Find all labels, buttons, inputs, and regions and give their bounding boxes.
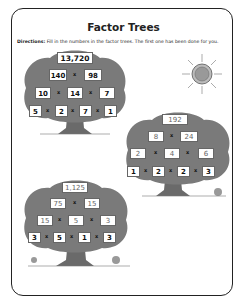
factor-box[interactable]: 1 xyxy=(78,232,91,243)
multiply-sign: x xyxy=(186,149,189,155)
directions-text: Fill in the numbers in the factor trees.… xyxy=(45,39,218,44)
factor-box[interactable]: 75 xyxy=(50,198,66,209)
multiply-sign: x xyxy=(89,89,92,95)
multiply-sign: x xyxy=(57,89,60,95)
multiply-sign: x xyxy=(194,167,197,173)
factor-box[interactable]: 24 xyxy=(180,131,198,142)
multiply-sign: x xyxy=(70,233,73,239)
factor-tree-1: 13,720 140 x 98 10 x 14 x 7 5 x 2 x 7 x … xyxy=(20,48,130,138)
factor-box[interactable]: 3 xyxy=(103,232,116,243)
factor-box[interactable]: 4 xyxy=(164,148,180,159)
multiply-sign: x xyxy=(73,199,76,205)
directions: Directions: Fill in the numbers in the f… xyxy=(17,39,218,44)
factor-box[interactable]: 1 xyxy=(104,105,117,117)
factor-box[interactable]: 7 xyxy=(99,87,115,99)
factor-box[interactable]: 2 xyxy=(55,105,68,117)
multiply-sign: x xyxy=(96,107,99,113)
page-title: Factor Trees xyxy=(0,21,247,33)
factor-tree-2: 192 8 x 24 2 x 4 x 6 1 x 2 x 2 x 3 xyxy=(122,110,234,200)
directions-label: Directions: xyxy=(17,39,45,44)
factor-box[interactable]: 14 xyxy=(67,87,83,99)
multiply-sign: x xyxy=(58,216,61,222)
multiply-sign: x xyxy=(154,149,157,155)
multiply-sign: x xyxy=(71,107,74,113)
factor-box[interactable]: 6 xyxy=(198,148,214,159)
factor-tree-3: 1,125 75 x 15 15 x 5 x 3 3 x 5 x 1 x 3 xyxy=(20,178,132,270)
factor-box[interactable]: 2 xyxy=(152,166,165,177)
multiply-sign: x xyxy=(73,71,76,77)
factor-box[interactable]: 2 xyxy=(177,166,190,177)
sun-icon xyxy=(180,52,224,100)
multiply-sign: x xyxy=(95,233,98,239)
factor-box[interactable]: 192 xyxy=(162,114,188,125)
factor-box[interactable]: 98 xyxy=(84,69,102,81)
multiply-sign: x xyxy=(169,167,172,173)
multiply-sign: x xyxy=(90,216,93,222)
factor-box[interactable]: 140 xyxy=(49,69,67,81)
factor-box[interactable]: 10 xyxy=(35,87,51,99)
multiply-sign: x xyxy=(45,233,48,239)
factor-box[interactable]: 5 xyxy=(53,232,66,243)
factor-box[interactable]: 1,125 xyxy=(62,182,88,193)
factor-box[interactable]: 1 xyxy=(127,166,140,177)
multiply-sign: x xyxy=(144,167,147,173)
factor-box[interactable]: 3 xyxy=(202,166,215,177)
factor-box[interactable]: 5 xyxy=(68,215,84,226)
factor-box[interactable]: 2 xyxy=(130,148,146,159)
factor-box[interactable]: 3 xyxy=(28,232,41,243)
factor-box[interactable]: 5 xyxy=(29,105,42,117)
multiply-sign: x xyxy=(46,107,49,113)
factor-box[interactable]: 15 xyxy=(84,198,100,209)
factor-box[interactable]: 15 xyxy=(37,215,53,226)
factor-box[interactable]: 8 xyxy=(148,131,164,142)
factor-box[interactable]: 7 xyxy=(79,105,92,117)
multiply-sign: x xyxy=(170,132,173,138)
factor-box[interactable]: 3 xyxy=(100,215,116,226)
factor-box[interactable]: 13,720 xyxy=(57,52,93,64)
